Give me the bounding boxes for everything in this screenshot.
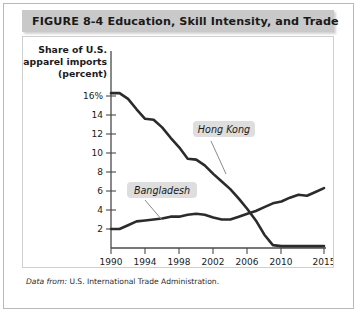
x-tick-label-1994: 1994 bbox=[134, 257, 157, 267]
y-tick-label-2: 2 bbox=[97, 224, 103, 234]
series-label-hong-kong: Hong Kong bbox=[198, 124, 250, 135]
y-tick-label-8: 8 bbox=[97, 167, 103, 177]
x-axis-ticks bbox=[111, 248, 324, 254]
line-chart: Share of U.S. apparel imports (percent) … bbox=[23, 37, 333, 267]
y-tick-label-16: 16% bbox=[83, 91, 103, 101]
y-axis-title-line-1: Share of U.S. bbox=[38, 44, 107, 55]
x-tick-label-1990: 1990 bbox=[100, 257, 123, 267]
leader-line-hong-kong bbox=[211, 141, 226, 174]
leader-line-bangladesh bbox=[145, 200, 162, 220]
y-tick-label-6: 6 bbox=[97, 186, 103, 196]
figure-container: FIGURE 8-4 Education, Skill Intensity, a… bbox=[0, 0, 357, 312]
figure-title: FIGURE 8-4 Education, Skill Intensity, a… bbox=[32, 15, 339, 28]
figure-title-bar: FIGURE 8-4 Education, Skill Intensity, a… bbox=[22, 10, 334, 32]
y-tick-label-10: 10 bbox=[92, 148, 104, 158]
annotation-bangladesh: Bangladesh bbox=[127, 182, 197, 198]
source-note: Data from: U.S. International Trade Admi… bbox=[26, 277, 219, 286]
x-tick-label-2015: 2015 bbox=[313, 257, 333, 267]
x-tick-label-2002: 2002 bbox=[202, 257, 225, 267]
x-tick-label-2010: 2010 bbox=[270, 257, 293, 267]
plot-card: Share of U.S. apparel imports (percent) … bbox=[22, 36, 334, 268]
y-tick-label-14: 14 bbox=[92, 110, 104, 120]
y-tick-label-4: 4 bbox=[97, 205, 103, 215]
y-axis-title-line-2: apparel imports bbox=[23, 56, 107, 67]
series-label-bangladesh: Bangladesh bbox=[134, 185, 190, 196]
source-note-text: U.S. International Trade Administration. bbox=[69, 277, 219, 286]
source-note-lead: Data from: bbox=[26, 277, 67, 286]
y-axis-title-line-3: (percent) bbox=[58, 68, 107, 79]
annotation-hong-kong: Hong Kong bbox=[193, 121, 255, 137]
x-tick-label-2006: 2006 bbox=[236, 257, 259, 267]
y-tick-label-12: 12 bbox=[92, 129, 103, 139]
series-line-hong-kong bbox=[111, 93, 324, 246]
x-tick-label-1998: 1998 bbox=[168, 257, 191, 267]
